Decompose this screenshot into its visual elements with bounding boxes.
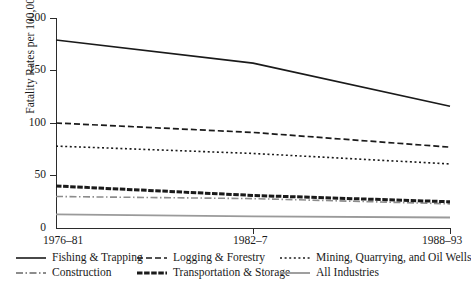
series-line-logging-forestry [56, 123, 450, 147]
legend-swatch-gray-solid-icon [280, 267, 310, 278]
legend-row-1: Fishing & Trapping Logging & Forestry Mi… [0, 251, 468, 266]
legend-item-fishing-trapping: Fishing & Trapping [16, 251, 143, 264]
legend-swatch-dashed-icon [137, 252, 167, 263]
series-line-all-industries [56, 214, 450, 217]
legend-label-mining-quarrying-oil-wells: Mining, Quarrying, and Oil Wells [316, 251, 471, 264]
legend-swatch-solid-icon [16, 252, 46, 263]
legend-label-all-industries: All Industries [316, 266, 379, 279]
legend-swatch-dotted-icon [280, 252, 310, 263]
legend-swatch-dash-dot-icon [16, 267, 46, 278]
legend-swatch-thick-dashed-icon [137, 267, 167, 278]
legend-row-2: Construction Transportation & Storage Al… [0, 266, 468, 281]
chart-legend: Fishing & Trapping Logging & Forestry Mi… [0, 251, 468, 291]
series-line-fishing-trapping [56, 40, 450, 106]
legend-label-transportation-storage: Transportation & Storage [173, 266, 290, 279]
legend-item-logging-forestry: Logging & Forestry [137, 251, 265, 264]
legend-item-construction: Construction [16, 266, 111, 279]
series-line-transportation-storage [56, 186, 450, 202]
series-line-mining-quarrying-and-oil-wells [56, 146, 450, 164]
legend-label-fishing-trapping: Fishing & Trapping [52, 251, 143, 264]
legend-label-logging-forestry: Logging & Forestry [173, 251, 265, 264]
legend-label-construction: Construction [52, 266, 111, 279]
legend-item-all-industries: All Industries [280, 266, 379, 279]
legend-item-transportation-storage: Transportation & Storage [137, 266, 290, 279]
legend-item-mining-quarrying-oil-wells: Mining, Quarrying, and Oil Wells [280, 251, 471, 264]
